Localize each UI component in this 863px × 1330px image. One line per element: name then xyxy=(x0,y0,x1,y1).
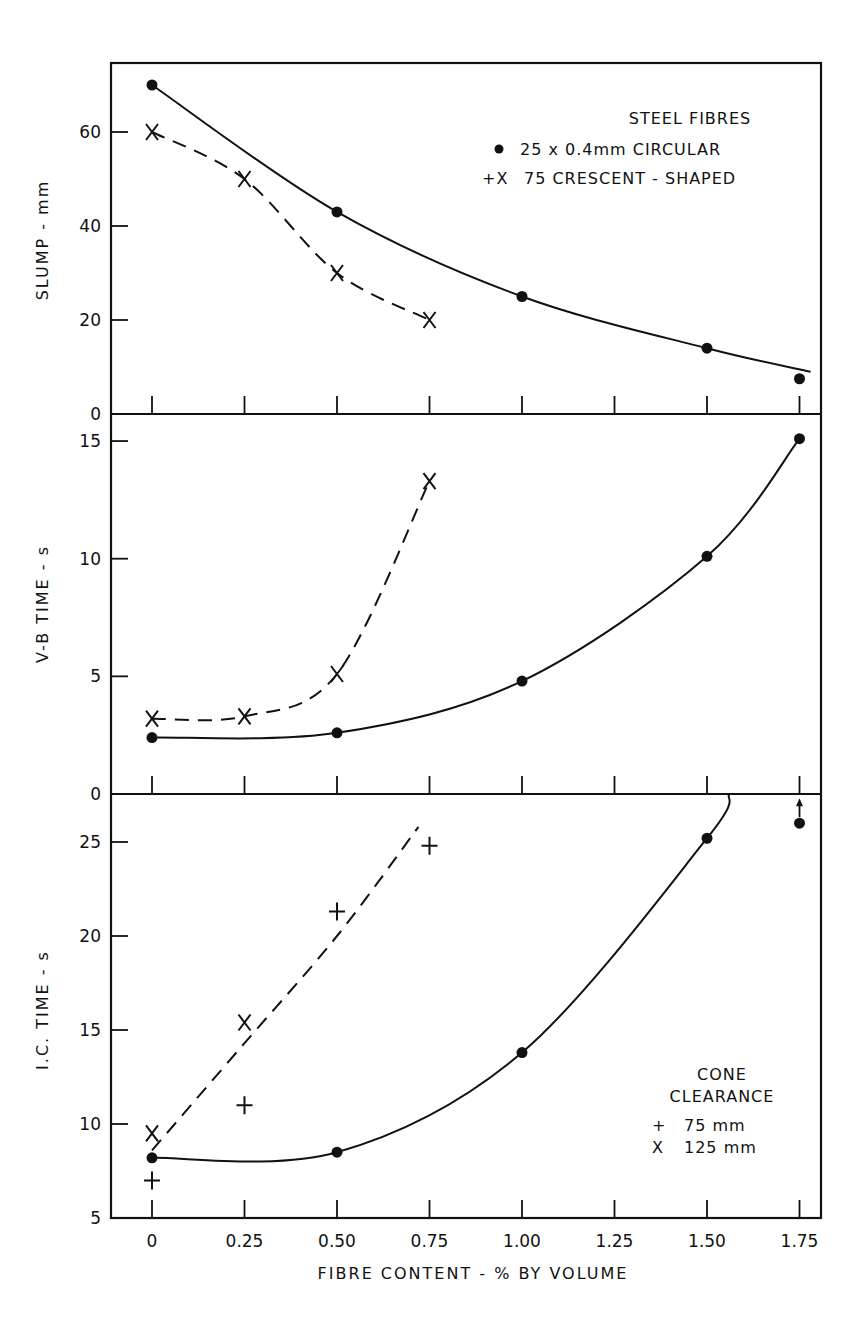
y-tick-label: 40 xyxy=(79,216,101,236)
data-markers xyxy=(144,80,805,1190)
y-axis-title-slump: SLUMP - mm xyxy=(33,180,52,301)
legend-label-125mm: 125 mm xyxy=(684,1138,757,1157)
x-marker-icon xyxy=(331,666,343,682)
dot-marker-icon xyxy=(147,80,158,91)
x-tick-label: 0 xyxy=(147,1231,158,1251)
plus-marker-icon xyxy=(422,837,438,855)
x-tick-label: 0.75 xyxy=(411,1231,449,1251)
dashed-fit-curve xyxy=(152,132,430,320)
dashed-fit-curve xyxy=(152,481,430,720)
dot-marker-icon xyxy=(794,373,805,384)
y-tick-label: 5 xyxy=(90,666,101,686)
legend-marker-plus-x: +X xyxy=(482,169,508,188)
plus-marker-icon xyxy=(144,1171,160,1189)
plus-marker-icon xyxy=(329,903,345,921)
x-marker-icon xyxy=(331,265,343,281)
dashed-fit-curve xyxy=(152,827,418,1150)
legend-cone-clearance: CONE CLEARANCE + 75 mm X 125 mm xyxy=(652,1065,774,1157)
dot-marker-icon xyxy=(517,1047,528,1058)
x-marker-icon xyxy=(424,312,436,328)
plot-frame xyxy=(111,63,821,1218)
solid-fit-curve xyxy=(152,439,800,739)
legend-steel-fibres: STEEL FIBRES 25 x 0.4mm CIRCULAR +X 75 C… xyxy=(482,109,751,188)
dot-marker-icon xyxy=(147,732,158,743)
y-tick-label: 20 xyxy=(79,310,101,330)
x-marker-icon xyxy=(239,1014,251,1030)
dot-marker-icon xyxy=(147,1152,158,1163)
dot-marker-icon xyxy=(702,343,713,354)
dot-marker-icon xyxy=(332,1147,343,1158)
y-tick-label: 0 xyxy=(90,784,101,804)
x-tick-label: 1.00 xyxy=(503,1231,541,1251)
y-tick-label: 25 xyxy=(79,832,101,852)
legend-label-75mm: 75 mm xyxy=(684,1116,746,1135)
dot-marker-icon xyxy=(702,833,713,844)
x-tick-label: 1.50 xyxy=(688,1231,726,1251)
x-marker-icon xyxy=(146,124,158,140)
x-tick-label: 1.75 xyxy=(781,1231,819,1251)
plus-marker-icon xyxy=(237,1096,253,1114)
dot-marker-icon xyxy=(794,433,805,444)
axis-ticks xyxy=(111,132,800,1218)
y-tick-label: 0 xyxy=(90,404,101,424)
dot-marker-icon xyxy=(794,798,805,829)
y-tick-label: 15 xyxy=(79,1020,101,1040)
fibre-content-chart-figure: 020406005101551015202500.250.500.751.001… xyxy=(0,0,863,1330)
solid-fit-curve xyxy=(152,794,730,1162)
y-tick-label: 20 xyxy=(79,926,101,946)
y-tick-label: 15 xyxy=(79,431,101,451)
x-tick-label: 0.50 xyxy=(318,1231,356,1251)
dot-marker-icon xyxy=(517,291,528,302)
x-marker-icon xyxy=(239,171,251,187)
legend-title-cone: CONE xyxy=(697,1065,747,1084)
x-tick-label: 0.25 xyxy=(226,1231,264,1251)
y-tick-label: 10 xyxy=(79,1114,101,1134)
x-axis-title: FIBRE CONTENT - % BY VOLUME xyxy=(318,1264,629,1283)
legend-plus-icon: + xyxy=(652,1116,666,1135)
x-marker-icon xyxy=(424,473,436,489)
y-tick-label: 5 xyxy=(90,1208,101,1228)
fitted-curves xyxy=(152,85,811,1162)
y-axis-title-vb-time: V-B TIME - s xyxy=(33,545,52,663)
legend-label-crescent: 75 CRESCENT - SHAPED xyxy=(524,169,736,188)
legend-x-icon: X xyxy=(652,1138,664,1157)
y-tick-label: 60 xyxy=(79,122,101,142)
dot-marker-icon xyxy=(702,551,713,562)
legend-label-circular: 25 x 0.4mm CIRCULAR xyxy=(520,140,721,159)
dot-marker-icon xyxy=(332,727,343,738)
chart-canvas: 020406005101551015202500.250.500.751.001… xyxy=(0,0,863,1330)
solid-fit-curve xyxy=(152,85,811,372)
legend-dot-icon xyxy=(495,145,504,154)
legend-title-clearance: CLEARANCE xyxy=(670,1087,775,1106)
x-tick-label: 1.25 xyxy=(596,1231,634,1251)
y-tick-label: 10 xyxy=(79,549,101,569)
x-marker-icon xyxy=(146,1125,158,1141)
legend-title-steel-fibres: STEEL FIBRES xyxy=(629,109,751,128)
dot-marker-icon xyxy=(517,676,528,687)
y-axis-title-ic-time: I.C. TIME - s xyxy=(33,950,52,1070)
dot-marker-icon xyxy=(332,206,343,217)
